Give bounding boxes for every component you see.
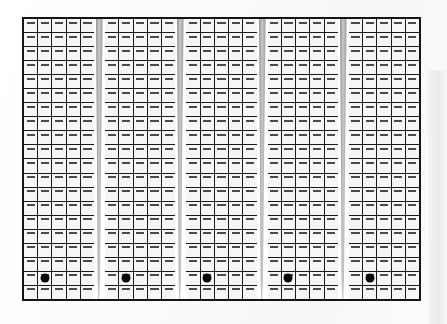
window-cell	[282, 159, 296, 172]
window-louver-icon	[313, 36, 321, 38]
window-cell	[296, 159, 310, 172]
window-cell	[325, 33, 338, 46]
window-cell	[52, 103, 66, 116]
window-cell	[296, 19, 310, 32]
window-cell	[52, 117, 66, 130]
facade-block-3	[268, 19, 338, 299]
window-louver-icon	[203, 148, 211, 150]
window-cell	[377, 131, 391, 144]
window-cell	[148, 174, 162, 187]
window-cell	[268, 103, 282, 116]
window-louver-icon	[246, 204, 254, 206]
window-cell	[325, 47, 338, 60]
facade-row	[186, 202, 256, 216]
window-louver-icon	[55, 50, 63, 52]
window-cell	[162, 244, 175, 257]
window-cell	[229, 258, 243, 271]
window-cell	[349, 145, 363, 158]
window-louver-icon	[189, 232, 197, 234]
window-cell	[162, 33, 175, 46]
window-cell	[119, 188, 133, 201]
window-louver-icon	[122, 190, 130, 192]
facade-row	[186, 230, 256, 244]
window-cell	[377, 258, 391, 271]
window-cell	[81, 258, 94, 271]
window-cell	[67, 131, 81, 144]
window-louver-icon	[69, 36, 77, 38]
window-cell	[282, 61, 296, 74]
window-cell	[38, 286, 52, 299]
window-cell	[296, 89, 310, 102]
window-cell	[38, 202, 52, 215]
window-cell	[392, 202, 406, 215]
facade-row	[268, 47, 338, 61]
window-louver-icon	[69, 148, 77, 150]
facade-row	[186, 61, 256, 75]
window-cell	[243, 89, 256, 102]
window-louver-icon	[150, 232, 158, 234]
window-cell	[377, 230, 391, 243]
window-louver-icon	[380, 120, 388, 122]
window-louver-icon	[217, 176, 225, 178]
window-louver-icon	[246, 78, 254, 80]
window-cell	[392, 33, 406, 46]
window-louver-icon	[122, 246, 130, 248]
window-louver-icon	[327, 64, 335, 66]
window-louver-icon	[380, 246, 388, 248]
window-louver-icon	[394, 176, 402, 178]
window-cell	[268, 286, 282, 299]
window-cell	[406, 244, 419, 257]
window-cell	[52, 159, 66, 172]
window-cell	[67, 216, 81, 229]
window-cell	[243, 188, 256, 201]
window-louver-icon	[351, 162, 359, 164]
window-cell	[201, 75, 215, 88]
window-cell	[24, 230, 38, 243]
window-louver-icon	[203, 162, 211, 164]
window-louver-icon	[380, 106, 388, 108]
window-louver-icon	[150, 162, 158, 164]
window-louver-icon	[165, 134, 173, 136]
window-cell	[215, 33, 229, 46]
window-cell	[349, 230, 363, 243]
window-cell	[363, 244, 377, 257]
window-louver-icon	[27, 134, 35, 136]
facade-block-seam-0	[94, 19, 105, 299]
window-louver-icon	[380, 134, 388, 136]
window-cell	[52, 174, 66, 187]
window-louver-icon	[270, 50, 278, 52]
window-cell	[310, 145, 324, 158]
window-louver-icon	[203, 218, 211, 220]
window-cell	[119, 131, 133, 144]
window-louver-icon	[189, 50, 197, 52]
facade-row	[349, 47, 419, 61]
window-louver-icon	[203, 50, 211, 52]
window-cell	[377, 61, 391, 74]
window-cell	[282, 89, 296, 102]
facade-row	[186, 131, 256, 145]
window-louver-icon	[408, 260, 416, 262]
window-louver-icon	[232, 176, 240, 178]
window-cell	[268, 89, 282, 102]
window-louver-icon	[380, 78, 388, 80]
facade-row	[24, 174, 94, 188]
window-louver-icon	[351, 176, 359, 178]
window-cell	[325, 202, 338, 215]
window-cell	[134, 145, 148, 158]
window-louver-icon	[408, 92, 416, 94]
facade-row	[24, 145, 94, 159]
window-louver-icon	[150, 106, 158, 108]
window-louver-icon	[270, 246, 278, 248]
window-cell	[67, 286, 81, 299]
window-louver-icon	[270, 218, 278, 220]
window-cell	[229, 47, 243, 60]
window-cell	[349, 61, 363, 74]
window-cell	[24, 272, 38, 285]
window-cell	[105, 202, 119, 215]
window-cell	[52, 216, 66, 229]
window-cell	[105, 47, 119, 60]
window-cell	[243, 286, 256, 299]
window-louver-icon	[55, 106, 63, 108]
window-louver-icon	[313, 162, 321, 164]
window-louver-icon	[351, 260, 359, 262]
